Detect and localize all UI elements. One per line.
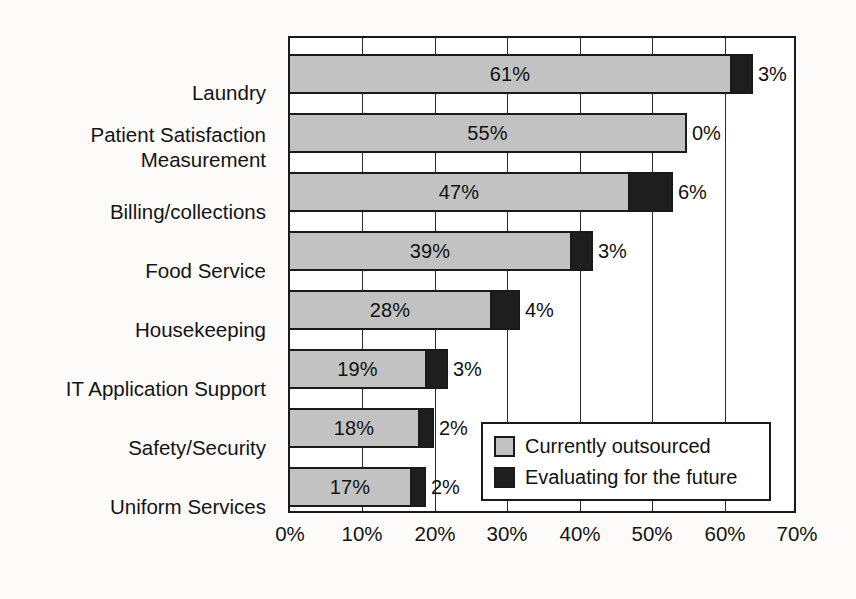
chart-root: Laundry Patient Satisfaction Measurement…: [0, 0, 856, 599]
category-label-safety-security: Safety/Security: [0, 435, 266, 460]
bar-end-value-label: 3%: [753, 54, 787, 94]
xtick-label-70: 70%: [776, 522, 817, 546]
legend-item-currently-outsourced[interactable]: Currently outsourced: [494, 431, 769, 462]
category-label-housekeeping: Housekeeping: [0, 317, 266, 342]
bar-segment-evaluating-future[interactable]: [491, 290, 520, 330]
black-swatch-icon: [494, 467, 515, 488]
bar-end-value-label: 6%: [673, 172, 707, 212]
bar-end-value-label: 0%: [687, 113, 721, 153]
bar-value-label: 61%: [490, 63, 531, 86]
bar-end-value-label: 3%: [448, 349, 482, 389]
bar-value-label: 19%: [337, 358, 378, 381]
chart-legend: Currently outsourced Evaluating for the …: [481, 422, 771, 501]
bar-row-housekeeping[interactable]: 28% 4%: [288, 290, 520, 330]
bar-end-value-label: 4%: [520, 290, 554, 330]
bar-segment-currently-outsourced[interactable]: 28%: [288, 290, 491, 330]
value-axis-labels: 0% 10% 20% 30% 40% 50% 60% 70%: [0, 522, 856, 562]
bar-value-label: 47%: [439, 181, 480, 204]
bar-segment-currently-outsourced[interactable]: 17%: [288, 467, 411, 507]
bar-value-label: 18%: [334, 417, 375, 440]
bar-end-value-label: 2%: [426, 467, 460, 507]
bar-row-it-application-support[interactable]: 19% 3%: [288, 349, 448, 389]
bar-end-value-label: 3%: [593, 231, 627, 271]
xtick-label-60: 60%: [704, 522, 745, 546]
category-label-food-service: Food Service: [0, 258, 266, 283]
bar-segment-evaluating-future[interactable]: [419, 408, 434, 448]
xtick-label-20: 20%: [414, 522, 455, 546]
bar-segment-currently-outsourced[interactable]: 18%: [288, 408, 419, 448]
bar-segment-currently-outsourced[interactable]: 47%: [288, 172, 629, 212]
xtick-label-10: 10%: [341, 522, 382, 546]
xtick-label-30: 30%: [486, 522, 527, 546]
legend-label: Evaluating for the future: [525, 466, 737, 489]
bar-segment-evaluating-future[interactable]: [629, 172, 673, 212]
category-label-it-application-support: IT Application Support: [0, 376, 266, 401]
bar-value-label: 55%: [467, 122, 508, 145]
bar-end-value-label: 2%: [434, 408, 468, 448]
legend-label: Currently outsourced: [525, 435, 711, 458]
bar-row-laundry[interactable]: 61% 3%: [288, 54, 753, 94]
bar-segment-evaluating-future[interactable]: [731, 54, 753, 94]
bar-row-patient-satisfaction-measurement[interactable]: 55% 0%: [288, 113, 687, 153]
bar-row-uniform-services[interactable]: 17% 2%: [288, 467, 426, 507]
bar-segment-currently-outsourced[interactable]: 61%: [288, 54, 731, 94]
xtick-label-40: 40%: [559, 522, 600, 546]
bar-row-food-service[interactable]: 39% 3%: [288, 231, 593, 271]
bar-value-label: 39%: [410, 240, 451, 263]
bar-segment-evaluating-future[interactable]: [571, 231, 593, 271]
bar-segment-evaluating-future[interactable]: [411, 467, 426, 507]
bar-segment-currently-outsourced[interactable]: 39%: [288, 231, 571, 271]
bar-segment-evaluating-future[interactable]: [426, 349, 448, 389]
bar-segment-currently-outsourced[interactable]: 19%: [288, 349, 426, 389]
category-label-uniform-services: Uniform Services: [0, 494, 266, 519]
category-label-laundry: Laundry: [0, 80, 266, 105]
xtick-label-50: 50%: [631, 522, 672, 546]
category-label-billing-collections: Billing/collections: [0, 199, 266, 224]
bar-row-billing-collections[interactable]: 47% 6%: [288, 172, 673, 212]
light-gray-swatch-icon: [494, 436, 515, 457]
category-axis-labels: Laundry Patient Satisfaction Measurement…: [0, 36, 278, 513]
legend-item-evaluating-for-the-future[interactable]: Evaluating for the future: [494, 462, 769, 493]
category-label-patient-satisfaction-measurement: Patient Satisfaction Measurement: [0, 122, 266, 172]
bar-row-safety-security[interactable]: 18% 2%: [288, 408, 434, 448]
bar-segment-currently-outsourced[interactable]: 55%: [288, 113, 687, 153]
xtick-label-0: 0%: [275, 522, 305, 546]
bar-value-label: 17%: [330, 476, 371, 499]
bar-value-label: 28%: [370, 299, 411, 322]
